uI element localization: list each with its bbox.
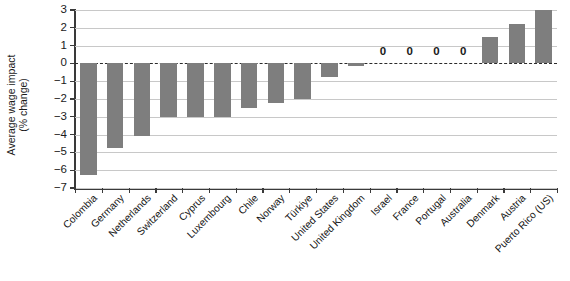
bar (187, 63, 204, 116)
bar (294, 63, 311, 99)
x-axis-tick (262, 188, 263, 193)
plot-area (75, 10, 557, 188)
bar (80, 63, 97, 174)
bar (535, 10, 552, 63)
x-axis-tick (423, 188, 424, 193)
x-axis-tick (316, 188, 317, 193)
x-axis-tick (450, 188, 451, 193)
x-axis-tick (477, 188, 478, 193)
gridline (75, 28, 557, 29)
bar-value-label: 0 (427, 46, 447, 58)
y-axis-tick-label: −7 (41, 182, 67, 194)
y-axis-tick-label: 0 (41, 57, 67, 69)
y-axis-title: Average wage impact (% change) (0, 14, 34, 194)
y-axis-tick (70, 170, 75, 171)
bar (241, 63, 258, 108)
y-axis-tick (70, 98, 75, 99)
y-axis-tick-label: −5 (41, 146, 67, 158)
y-axis-title-line2: (% change) (17, 78, 29, 132)
x-axis-tick (155, 188, 156, 193)
y-axis-tick-label: 3 (41, 4, 67, 16)
x-axis-tick (530, 188, 531, 193)
x-axis-tick (343, 188, 344, 193)
x-axis-tick (209, 188, 210, 193)
y-axis-tick (70, 116, 75, 117)
y-axis-tick-label: 1 (41, 40, 67, 52)
y-axis-tick-label: −1 (41, 75, 67, 87)
y-axis-tick (70, 9, 75, 10)
x-axis-tick (557, 188, 558, 193)
bar (268, 63, 285, 103)
y-axis-tick (70, 134, 75, 135)
y-axis-tick (70, 45, 75, 46)
bar-value-label: 0 (373, 46, 393, 58)
x-axis-tick (182, 188, 183, 193)
x-axis-tick (370, 188, 371, 193)
bar-value-label: 0 (400, 46, 420, 58)
x-axis-tick (129, 188, 130, 193)
x-axis-tick (289, 188, 290, 193)
bar (509, 24, 526, 63)
y-axis-tick (70, 152, 75, 153)
y-axis-tick-label: 2 (41, 22, 67, 34)
y-axis-tick-label: −3 (41, 111, 67, 123)
y-axis-tick (70, 81, 75, 82)
x-axis-tick (503, 188, 504, 193)
bar (107, 63, 124, 148)
y-axis-tick-label: −6 (41, 164, 67, 176)
x-axis-category-label: Norway (255, 193, 287, 225)
y-axis-title-line1: Average wage impact (5, 55, 17, 156)
gridline (75, 170, 557, 171)
bar (134, 63, 151, 136)
bar-chart: Average wage impact (% change) 3210−1−2−… (0, 0, 570, 281)
y-axis-tick-label: −2 (41, 93, 67, 105)
x-axis-tick (102, 188, 103, 193)
y-axis-tick-label: −4 (41, 129, 67, 141)
bar (214, 63, 231, 116)
gridline (75, 10, 557, 11)
y-axis-tick (70, 27, 75, 28)
gridline (75, 152, 557, 153)
bar (321, 63, 338, 76)
x-axis-tick (236, 188, 237, 193)
bar (348, 63, 365, 66)
x-axis-tick (75, 188, 76, 193)
bar-value-label: 0 (453, 46, 473, 58)
bar (482, 37, 499, 64)
bar (160, 63, 177, 116)
x-axis-tick (396, 188, 397, 193)
